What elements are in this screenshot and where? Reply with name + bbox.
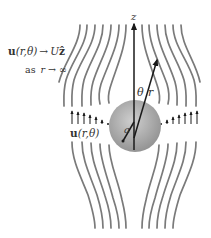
streamlines-lower-left <box>72 142 126 228</box>
z-axis-label: z <box>130 11 137 22</box>
theta-label: θ <box>137 86 144 99</box>
far-field-limit: asr→∞ <box>25 64 67 75</box>
velocity-profile-left <box>72 111 109 125</box>
streamlines-lower-right <box>142 142 196 228</box>
velocity-label: u(r,θ) <box>70 127 99 139</box>
stokes-flow-diagram: z θ r a u(r,θ)→Uẑ asr→∞ u(r,θ) <box>0 0 211 238</box>
sphere-radius-label: a <box>124 124 130 135</box>
far-field-condition: u(r,θ)→Uẑ <box>8 45 65 57</box>
r-label: r <box>148 86 154 99</box>
streamlines-upper-left <box>59 25 126 106</box>
sphere <box>109 100 161 152</box>
velocity-profile-right <box>160 111 197 125</box>
